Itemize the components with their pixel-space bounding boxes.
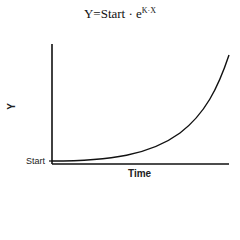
exponential-curve xyxy=(52,55,229,161)
x-axis-label: Time xyxy=(128,168,151,179)
y-tick-label-start: Start xyxy=(26,156,45,166)
y-axis-label: Y xyxy=(6,103,17,110)
